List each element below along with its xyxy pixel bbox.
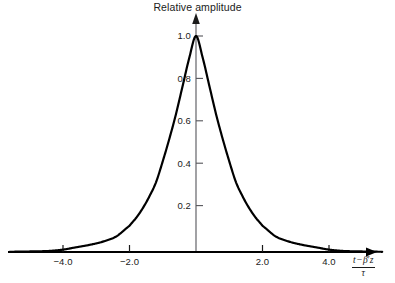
x-axis-label-denominator: τ [352, 268, 375, 279]
y-tick-label-0-6: 0.6 [165, 115, 191, 126]
x-axis-label-numerator: t−β′z [352, 256, 375, 268]
y-tick-label-0-2: 0.2 [165, 200, 191, 211]
chart-figure: Relative amplitude 0.2 0.4 0.6 0.8 1.0 [0, 0, 395, 283]
y-axis-arrowhead [192, 13, 200, 24]
y-tick-label-1-0: 1.0 [165, 30, 191, 41]
x-tick-label-minus-2: −2.0 [113, 256, 147, 267]
x-tick-label-plus-2: 2.0 [246, 256, 280, 267]
y-tick-label-0-4: 0.4 [165, 158, 191, 169]
y-axis-ticks [196, 36, 203, 206]
x-axis-label: t−β′z τ [352, 256, 375, 278]
x-axis-label-z: z [370, 255, 374, 265]
plot-canvas [0, 0, 395, 283]
x-tick-label-minus-4: −4.0 [46, 256, 80, 267]
x-axis-label-minus: − [356, 255, 363, 265]
y-tick-label-0-8: 0.8 [165, 73, 191, 84]
x-tick-label-plus-4: 4.0 [312, 256, 346, 267]
